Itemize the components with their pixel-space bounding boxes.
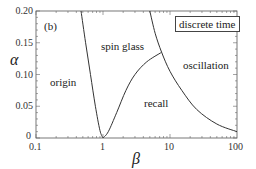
phase-boundary-curve	[81, 11, 103, 138]
legend-box: discrete time	[175, 16, 240, 32]
ytick-label: 0	[26, 131, 31, 141]
legend-text: discrete time	[179, 18, 236, 30]
region-label-spin-glass: spin glass	[101, 41, 144, 52]
panel-label: (b)	[44, 21, 57, 32]
xtick-label: 100	[228, 142, 243, 152]
region-label-recall: recall	[144, 98, 168, 109]
region-label-origin: origin	[50, 77, 76, 88]
phase-boundary-curve	[103, 52, 162, 138]
xtick-label: 1	[100, 142, 105, 152]
ytick-label: 0.10	[16, 70, 34, 80]
xtick-label: 0.1	[29, 142, 42, 152]
ytick-label: 0.05	[16, 101, 34, 111]
region-label-oscillation: oscillation	[183, 60, 229, 71]
ytick-label: 0.20	[16, 6, 34, 16]
x-axis-label: β	[132, 151, 140, 167]
ytick-label: 0.15	[16, 38, 34, 48]
xtick-label: 10	[164, 142, 174, 152]
y-axis-label: α	[10, 52, 18, 68]
